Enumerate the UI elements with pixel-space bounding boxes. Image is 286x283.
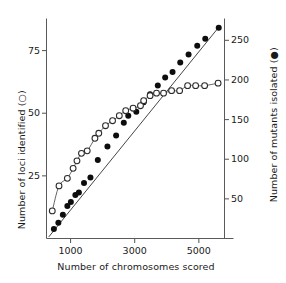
data-point-loci xyxy=(84,148,90,154)
data-point-mutants xyxy=(155,83,161,89)
data-point-loci xyxy=(64,175,70,181)
series-layer xyxy=(49,25,222,237)
data-point-loci xyxy=(56,183,62,189)
data-point-mutants xyxy=(121,120,127,126)
data-point-loci xyxy=(185,83,191,89)
data-point-loci xyxy=(49,208,55,214)
data-point-loci xyxy=(103,123,109,129)
data-point-mutants xyxy=(202,36,208,42)
data-point-mutants xyxy=(177,60,183,66)
data-point-mutants xyxy=(55,220,61,226)
data-point-loci xyxy=(169,88,175,94)
data-point-mutants xyxy=(60,212,66,218)
data-point-loci xyxy=(215,80,221,86)
trend-line-mutants xyxy=(49,26,220,237)
data-point-mutants xyxy=(104,144,110,150)
data-point-mutants xyxy=(76,190,82,196)
data-point-mutants xyxy=(216,25,222,31)
data-point-loci xyxy=(74,158,80,164)
data-point-mutants xyxy=(51,226,57,232)
data-point-loci xyxy=(116,113,122,119)
data-point-loci xyxy=(130,105,136,111)
data-point-mutants xyxy=(162,75,168,81)
data-point-mutants xyxy=(113,132,119,138)
data-point-loci xyxy=(202,83,208,89)
data-point-mutants xyxy=(186,52,192,58)
data-point-loci xyxy=(147,93,153,99)
plot-canvas xyxy=(0,0,286,283)
data-point-mutants xyxy=(95,157,101,163)
data-point-loci xyxy=(177,88,183,94)
data-point-mutants xyxy=(87,174,93,180)
data-point-loci xyxy=(123,108,129,114)
data-point-loci xyxy=(110,118,116,124)
data-point-mutants xyxy=(170,69,176,75)
data-point-mutants xyxy=(194,43,200,49)
data-point-loci xyxy=(79,150,85,156)
data-point-loci xyxy=(154,90,160,96)
data-point-loci xyxy=(141,98,147,104)
data-point-mutants xyxy=(68,199,74,205)
data-point-loci xyxy=(161,90,167,96)
figure-scatter-plot: Number of loci identified (○) Number of … xyxy=(0,0,286,283)
data-point-mutants xyxy=(81,180,87,186)
data-point-loci xyxy=(193,83,199,89)
data-point-loci xyxy=(70,165,76,171)
data-point-loci xyxy=(96,130,102,136)
data-point-loci xyxy=(92,135,98,141)
